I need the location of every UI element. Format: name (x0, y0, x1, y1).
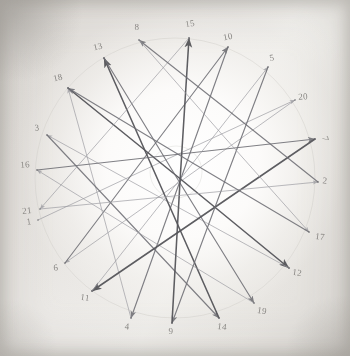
vertex-dot-3 (46, 134, 48, 136)
vertex-label-8: 8 (135, 23, 140, 32)
vertex-dot-9 (171, 322, 173, 324)
vertex-dot-4 (130, 317, 132, 319)
vertex-label-14: 14 (217, 322, 227, 332)
vertex-label-15: 15 (184, 19, 195, 30)
vertex-dot-group (36, 37, 319, 324)
vertex-dot-20 (294, 99, 296, 101)
vertex-label-12: 12 (292, 268, 303, 278)
vertex-label-5: 5 (269, 53, 275, 63)
vertex-label-4: 4 (124, 322, 129, 331)
edge-8-to-17 (139, 40, 309, 232)
vertex-label-20: 20 (298, 92, 308, 102)
vertex-dot-18 (67, 87, 69, 89)
vertex-label-19: 19 (256, 306, 267, 317)
vertex-label-6: 6 (53, 263, 59, 272)
vertex-dot-8 (138, 39, 140, 41)
vertex-label-9: 9 (169, 327, 174, 336)
vertex-dot-12 (288, 267, 290, 269)
vertex-dot-13 (103, 57, 105, 59)
vertex-dot-5 (267, 66, 269, 68)
vertex-dot-11 (91, 290, 93, 292)
vertex-label-21: 21 (22, 206, 32, 216)
vertex-dot-14 (218, 317, 220, 319)
vertex-dot-1 (37, 219, 39, 221)
vertex-label-1: 1 (26, 217, 32, 227)
vertex-label-2: 2 (322, 176, 328, 185)
edge-15-to-21 (40, 38, 189, 209)
vertex-label-3: 3 (34, 123, 39, 132)
vertex-dot-19 (253, 302, 255, 304)
vertex-dot-10 (227, 46, 229, 48)
vertex-dot-6 (64, 262, 66, 264)
vertex-dot-7 (314, 138, 316, 140)
vertex-dot-15 (188, 37, 190, 39)
vertex-label-11: 11 (80, 293, 90, 303)
vertex-dot-2 (317, 181, 319, 183)
vertex-label-17: 17 (315, 232, 325, 242)
vertex-dot-16 (36, 169, 38, 171)
vertex-dot-21 (39, 208, 41, 210)
scanned-page: 123456789101112131415161718192021 (0, 0, 350, 356)
vertex-label-16: 16 (20, 160, 30, 170)
star-polygon-figure (0, 0, 350, 356)
edge-18-to-12 (68, 88, 289, 268)
vertex-dot-17 (308, 231, 310, 233)
